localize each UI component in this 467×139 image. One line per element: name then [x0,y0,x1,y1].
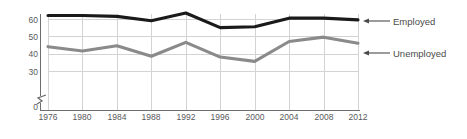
arrow-employed-icon [363,17,391,25]
arrow-unemployed-icon [363,49,391,57]
line-unemployed [48,37,358,61]
chart-container: 60 50 40 30 0 1976 1980 1984 1988 1992 1… [0,0,467,139]
callout-unemployed-label: Unemployed [393,49,446,59]
line-employed [48,13,358,28]
callout-employed-label: Employed [393,17,435,27]
